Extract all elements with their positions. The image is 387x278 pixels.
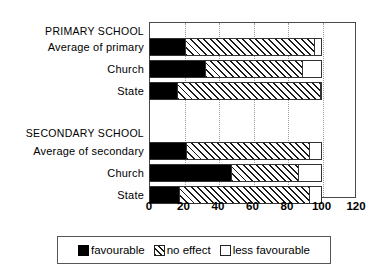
legend-label-less-favourable: less favourable bbox=[233, 244, 310, 256]
segment-less-favourable bbox=[302, 61, 321, 77]
legend-label-no-effect: no effect bbox=[167, 244, 211, 256]
x-tick-100: 100 bbox=[312, 200, 331, 212]
legend-item-less-favourable: less favourable bbox=[220, 244, 310, 256]
segment-no-effect bbox=[177, 83, 319, 99]
segment-no-effect bbox=[205, 61, 302, 77]
x-tick-20: 20 bbox=[177, 200, 190, 212]
segment-favourable bbox=[150, 143, 186, 159]
x-tick-120: 120 bbox=[346, 200, 365, 212]
row-label-secondary-church: Church bbox=[0, 167, 147, 179]
legend: favourable no effect less favourable bbox=[57, 236, 331, 264]
bar-average-of-secondary bbox=[149, 142, 322, 160]
row-label-primary-church: Church bbox=[0, 63, 147, 75]
row-label-primary-state: State bbox=[0, 85, 147, 97]
segment-less-favourable bbox=[314, 39, 321, 55]
legend-item-favourable: favourable bbox=[78, 244, 145, 256]
segment-no-effect bbox=[231, 165, 298, 181]
segment-favourable bbox=[150, 39, 185, 55]
bar-average-of-primary bbox=[149, 38, 322, 56]
segment-favourable bbox=[150, 165, 231, 181]
segment-no-effect bbox=[186, 143, 309, 159]
x-tick-0: 0 bbox=[146, 200, 152, 212]
legend-swatch-less-favourable-icon bbox=[220, 245, 231, 256]
row-label-average-of-secondary: Average of secondary bbox=[0, 145, 147, 157]
segment-favourable bbox=[150, 83, 177, 99]
x-axis: 0 20 40 60 80 100 120 bbox=[0, 200, 387, 216]
segment-less-favourable bbox=[320, 83, 321, 99]
legend-swatch-no-effect-icon bbox=[154, 245, 165, 256]
row-label-average-of-primary: Average of primary bbox=[0, 41, 147, 53]
x-tick-40: 40 bbox=[212, 200, 225, 212]
legend-item-no-effect: no effect bbox=[154, 244, 211, 256]
segment-less-favourable bbox=[298, 165, 320, 181]
x-tick-60: 60 bbox=[246, 200, 259, 212]
bar-secondary-church bbox=[149, 164, 322, 182]
segment-favourable bbox=[150, 61, 205, 77]
gridline-100 bbox=[323, 23, 324, 197]
group-heading-primary: PRIMARY SCHOOL bbox=[0, 25, 147, 37]
bar-primary-state bbox=[149, 82, 322, 100]
legend-label-favourable: favourable bbox=[91, 244, 145, 256]
x-tick-80: 80 bbox=[281, 200, 294, 212]
bar-chart: PRIMARY SCHOOL Average of primary Church… bbox=[0, 0, 387, 278]
group-heading-secondary: SECONDARY SCHOOL bbox=[0, 127, 147, 139]
segment-no-effect bbox=[185, 39, 314, 55]
legend-swatch-favourable-icon bbox=[78, 245, 89, 256]
segment-less-favourable bbox=[309, 143, 321, 159]
bar-primary-church bbox=[149, 60, 322, 78]
